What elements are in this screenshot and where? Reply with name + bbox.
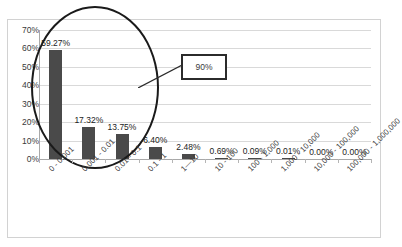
y-axis-tick-label: 40%	[5, 80, 39, 90]
y-axis-tick-label: 50%	[5, 62, 39, 72]
bar-value-label: 59.27%	[41, 38, 70, 48]
x-axis-tick	[238, 159, 239, 163]
x-axis-tick	[338, 159, 339, 163]
plot-area	[39, 30, 371, 159]
x-axis-tick	[139, 159, 140, 163]
y-axis: 70%60%50%40%30%20%10%0%	[8, 30, 39, 159]
x-axis-tick	[271, 159, 272, 163]
gridline	[39, 30, 371, 31]
x-axis-tick	[305, 159, 306, 163]
x-axis-tick	[371, 159, 372, 163]
x-axis-tick	[72, 159, 73, 163]
y-axis-tick-label: 70%	[5, 25, 39, 35]
y-axis-line	[39, 30, 40, 160]
gridline	[39, 48, 371, 49]
bar-value-label: 13.75%	[108, 122, 137, 132]
bar-value-label: 17.32%	[74, 115, 103, 125]
y-axis-tick-label: 20%	[5, 117, 39, 127]
bar	[49, 50, 62, 159]
x-axis-tick	[105, 159, 106, 163]
callout-label: 90%	[195, 62, 212, 72]
y-axis-tick-label: 30%	[5, 99, 39, 109]
bar-value-label: 6.40%	[143, 135, 167, 145]
y-axis-tick-label: 10%	[5, 136, 39, 146]
x-axis-tick	[172, 159, 173, 163]
bar-value-label: 2.48%	[176, 142, 200, 152]
callout-box: 90%	[181, 54, 227, 80]
y-axis-tick-label: 0%	[5, 154, 39, 164]
gridline	[39, 104, 371, 105]
chart-container: 70%60%50%40%30%20%10%0% 90% 59.27%0 - 0.…	[7, 19, 381, 238]
x-axis-tick	[205, 159, 206, 163]
y-axis-tick-label: 60%	[5, 43, 39, 53]
x-axis-tick	[39, 159, 40, 163]
gridline	[39, 85, 371, 86]
